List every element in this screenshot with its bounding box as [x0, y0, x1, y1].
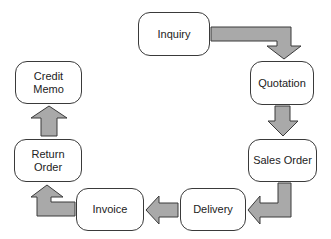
node-inquiry-label: Inquiry [157, 28, 190, 41]
arrow-return-order-to-credit-memo [31, 106, 67, 136]
node-delivery-label: Delivery [193, 203, 233, 216]
arrow-inquiry-to-quotation [211, 27, 301, 59]
node-invoice-label: Invoice [93, 203, 128, 216]
arrow-sales-order-to-delivery [248, 183, 291, 224]
node-invoice: Invoice [76, 188, 144, 231]
node-return-order: Return Order [14, 139, 82, 182]
arrow-delivery-to-invoice [146, 196, 178, 224]
node-inquiry: Inquiry [138, 12, 210, 56]
arrow-quotation-to-sales-order [268, 106, 298, 136]
node-quotation-label: Quotation [258, 77, 306, 90]
node-sales-order-label: Sales Order [253, 154, 312, 167]
node-sales-order: Sales Order [248, 139, 317, 182]
arrow-invoice-to-return-order [31, 185, 75, 216]
sales-process-diagram: Inquiry Quotation Sales Order Delivery I… [0, 0, 331, 239]
node-quotation: Quotation [250, 61, 314, 105]
node-delivery: Delivery [180, 188, 246, 231]
node-credit-memo: Credit Memo [15, 61, 82, 104]
node-return-order-label: Return Order [31, 148, 64, 174]
node-credit-memo-label: Credit Memo [33, 70, 64, 96]
